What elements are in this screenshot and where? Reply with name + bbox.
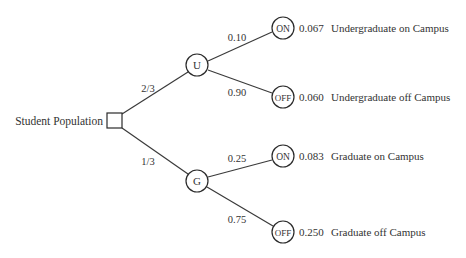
graduate-node-label: G — [193, 175, 201, 187]
outcome-u-on: Undergraduate on Campus — [331, 22, 449, 34]
edge-root-g — [122, 128, 188, 174]
prob-u-off: 0.90 — [228, 87, 246, 98]
u-on-campus-node-label: ON — [276, 24, 290, 34]
undergraduate-node-label: U — [193, 59, 201, 71]
outcome-g-on: Graduate on Campus — [331, 150, 424, 162]
prob-undergraduate: 2/3 — [141, 83, 154, 94]
prob-graduate: 1/3 — [141, 156, 154, 167]
prob-g-off: 0.75 — [228, 214, 246, 225]
outcome-u-off: Undergraduate off Campus — [331, 91, 450, 103]
root-label: Student Population — [15, 115, 103, 128]
prob-g-on: 0.25 — [228, 153, 246, 164]
joint-u-on: 0.067 — [299, 22, 324, 34]
root-decision-node — [107, 113, 122, 128]
joint-u-off: 0.060 — [299, 91, 324, 103]
prob-u-on: 0.10 — [228, 32, 246, 43]
outcome-g-off: Graduate off Campus — [331, 226, 426, 238]
g-on-campus-node-label: ON — [276, 152, 290, 162]
edge-root-u — [122, 72, 188, 114]
joint-g-on: 0.083 — [299, 150, 324, 162]
u-off-campus-node-label: OFF — [275, 93, 292, 103]
joint-g-off: 0.250 — [299, 226, 324, 238]
probability-tree-diagram: Student Population U 2/3 G 1/3 ON 0.10 0… — [0, 0, 466, 258]
g-off-campus-node-label: OFF — [275, 228, 292, 238]
